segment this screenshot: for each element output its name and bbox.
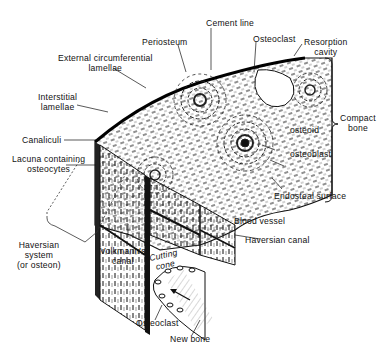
label-volkmanns-line1: Volkmann's [100, 246, 146, 256]
label-haversian-system: Haversian system (or osteon) [17, 240, 61, 270]
label-haversian-system-line3: (or osteon) [17, 260, 61, 270]
label-external-circumferential-lamellae: External circumferential lamellae [58, 53, 153, 73]
label-canaliculi: Canaliculi [22, 135, 61, 145]
label-interstitial-lamellae: Interstitial lamellae [38, 92, 77, 112]
label-haversian-system-line1: Haversian [17, 240, 61, 250]
label-resorption-cavity-line2: cavity [304, 47, 348, 57]
label-compact-bone-line2: bone [340, 123, 376, 133]
label-blood-vessel: Blood vessel [234, 216, 285, 226]
label-volkmanns-canal: Volkmann's canal [100, 246, 146, 266]
label-resorption-cavity-line1: Resorption [304, 37, 348, 47]
label-osteoid: osteoid [290, 125, 319, 135]
label-interstitial-line1: Interstitial [38, 92, 77, 102]
label-new-bone: New bone [170, 334, 210, 344]
label-lacuna-line1: Lacuna containing [12, 154, 85, 164]
label-haversian-system-line2: system [17, 250, 61, 260]
label-resorption-cavity: Resorption cavity [304, 37, 348, 57]
label-osteoclast-bottom: Osteoclast [136, 318, 179, 328]
label-lacuna-containing-osteocytes: Lacuna containing osteocytes [12, 154, 85, 174]
label-ext-circ-line1: External circumferential [58, 53, 153, 63]
label-compact-bone-line1: Compact [340, 113, 376, 123]
label-cement-line: Cement line [206, 18, 254, 28]
label-haversian-canal: Haversian canal [245, 235, 310, 245]
label-endosteal-surface: Endosteal surface [274, 191, 346, 201]
label-volkmanns-line2: canal [100, 256, 146, 266]
label-osteoclast-top: Osteoclast [253, 34, 296, 44]
cutting-cone [153, 266, 205, 340]
label-compact-bone: Compact bone [340, 113, 376, 133]
label-interstitial-line2: lamellae [38, 102, 77, 112]
label-osteoblast: osteoblast [290, 149, 331, 159]
label-lacuna-line2: osteocytes [12, 164, 85, 174]
label-periosteum: Periosteum [142, 37, 187, 47]
label-ext-circ-line2: lamellae [58, 63, 153, 73]
